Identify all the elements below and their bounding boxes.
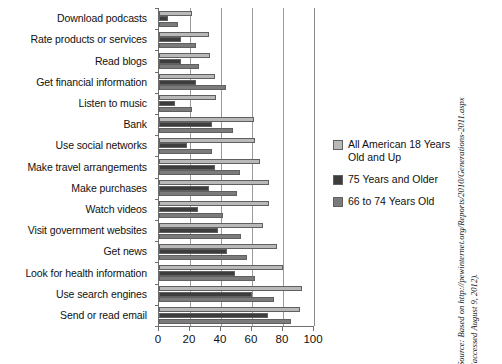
category-label: Use search engines (0, 284, 152, 305)
bar (159, 319, 291, 324)
bar (159, 186, 209, 191)
bar (159, 122, 212, 127)
bar (159, 80, 196, 85)
legend-swatch-icon (333, 197, 343, 207)
legend-swatch-icon (333, 140, 343, 150)
bar (159, 292, 252, 297)
bar (159, 265, 283, 270)
bar-group (159, 72, 314, 93)
source-note: Source: Based on http://pewinternet.org/… (455, 186, 481, 364)
bar (159, 138, 255, 143)
x-axis-tick (251, 326, 252, 331)
bar-group (159, 156, 314, 177)
x-tick-label: 60 (245, 333, 258, 345)
x-axis-line (158, 326, 313, 327)
bar (159, 22, 178, 27)
bar (159, 37, 181, 42)
bar (159, 59, 181, 64)
bar (159, 32, 209, 37)
category-label: Make travel arrangements (0, 156, 152, 177)
category-axis-labels: Download podcastsRate products or servic… (0, 8, 152, 326)
bar (159, 297, 274, 302)
bar (159, 74, 215, 79)
bar-groups (159, 8, 314, 326)
x-tick-label: 20 (183, 333, 196, 345)
bar (159, 223, 263, 228)
bar (159, 286, 302, 291)
bar (159, 107, 192, 112)
bar (159, 191, 237, 196)
x-axis-tick (189, 326, 190, 331)
bar (159, 159, 260, 164)
category-label: Look for health information (0, 262, 152, 283)
plot-area (158, 8, 314, 326)
bar (159, 101, 175, 106)
bar-group (159, 284, 314, 305)
x-axis-tick (158, 326, 159, 331)
bar (159, 271, 235, 276)
bar (159, 313, 268, 318)
bar (159, 95, 216, 100)
bar (159, 128, 233, 133)
category-label: Listen to music (0, 93, 152, 114)
legend-label: 75 Years and Older (348, 173, 438, 186)
x-axis-tick (282, 326, 283, 331)
bar-group (159, 262, 314, 283)
bar (159, 228, 218, 233)
bar-group (159, 220, 314, 241)
category-label: Send or read email (0, 305, 152, 326)
x-tick-label: 80 (276, 333, 289, 345)
category-label: Read blogs (0, 50, 152, 71)
bar-chart-figure: Download podcastsRate products or servic… (0, 0, 502, 364)
bar (159, 207, 198, 212)
category-label: Bank (0, 114, 152, 135)
legend-item: 75 Years and Older (333, 173, 463, 186)
category-label: Make purchases (0, 178, 152, 199)
gridline (314, 8, 315, 326)
legend-item: 66 to 74 Years Old (333, 195, 463, 208)
x-tick-label: 100 (303, 333, 322, 345)
bar (159, 201, 269, 206)
bar (159, 307, 300, 312)
bar-group (159, 8, 314, 29)
category-label: Rate products or services (0, 29, 152, 50)
source-note-line-1: Source: Based on http://pewinternet.org/… (455, 186, 468, 364)
source-note-line-2: (accessed August 9, 2012). (468, 186, 481, 364)
bar (159, 149, 212, 154)
bar-group (159, 29, 314, 50)
category-label: Use social networks (0, 135, 152, 156)
legend-label: 66 to 74 Years Old (348, 195, 434, 208)
bar-group (159, 178, 314, 199)
bar (159, 143, 187, 148)
bar (159, 255, 247, 260)
bar (159, 213, 223, 218)
x-tick-label: 40 (214, 333, 227, 345)
category-label: Get news (0, 241, 152, 262)
bar-group (159, 114, 314, 135)
bar-group (159, 199, 314, 220)
bar (159, 234, 241, 239)
x-axis-tick-labels: 020406080100 (130, 333, 350, 351)
bar-group (159, 241, 314, 262)
x-axis-tick (313, 326, 314, 331)
bar (159, 85, 226, 90)
bar (159, 16, 168, 21)
bar (159, 244, 277, 249)
bar (159, 11, 192, 16)
bar-group (159, 50, 314, 71)
legend-swatch-icon (333, 175, 343, 185)
bar (159, 165, 215, 170)
bar (159, 249, 227, 254)
x-axis-tick (220, 326, 221, 331)
bar (159, 64, 199, 69)
chart-legend: All American 18 Years Old and Up75 Years… (333, 138, 463, 218)
category-label: Visit government websites (0, 220, 152, 241)
legend-label: All American 18 Years Old and Up (348, 138, 456, 164)
bar (159, 170, 240, 175)
bar (159, 117, 254, 122)
bar (159, 53, 210, 58)
bar (159, 180, 269, 185)
bar (159, 276, 255, 281)
category-label: Get financial information (0, 72, 152, 93)
legend-item: All American 18 Years Old and Up (333, 138, 463, 164)
